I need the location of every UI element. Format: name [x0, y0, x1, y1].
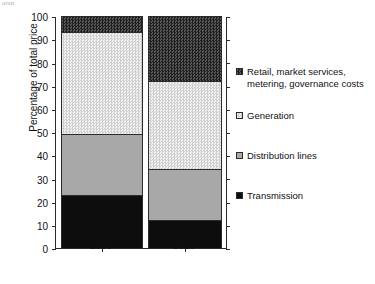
y-tick-label: 10 [24, 221, 48, 232]
plot-area: 0102030405060708090100 [55, 17, 227, 249]
bar-segment-2010-solid-gray [148, 169, 222, 220]
bar-segment-1990-solid-gray [61, 134, 143, 194]
y-tick-mark-right [226, 249, 230, 250]
y-tick-mark [52, 64, 56, 65]
legend-label: Generation [247, 110, 294, 122]
legend-item-light-checker[interactable]: Generation [236, 110, 294, 122]
legend-item-solid-black[interactable]: Transmission [236, 190, 303, 202]
legend-item-solid-gray[interactable]: Distribution lines [236, 150, 317, 162]
y-tick-30: 30 [24, 170, 56, 188]
y-tick-mark-right [226, 156, 230, 157]
y-tick-0: 0 [24, 240, 56, 258]
y-tick-mark [52, 87, 56, 88]
bar-segment-2010-light-checker [148, 81, 222, 169]
bar-2010 [148, 16, 222, 248]
bar-segment-1990-light-checker [61, 32, 143, 134]
y-tick-90: 90 [24, 31, 56, 49]
legend-label: Transmission [247, 190, 303, 202]
y-tick-100: 100 [24, 8, 56, 26]
y-tick-mark [52, 249, 56, 250]
legend-swatch-icon [236, 192, 243, 199]
legend-swatch-icon [236, 112, 243, 119]
y-tick-mark-right [226, 226, 230, 227]
y-tick-70: 70 [24, 78, 56, 96]
legend-label: Retail, market services, metering, gover… [247, 66, 367, 89]
y-tick-label: 60 [24, 105, 48, 116]
bar-segment-1990-dark-checker [61, 16, 143, 32]
y-tick-mark-right [226, 203, 230, 204]
y-tick-mark [52, 17, 56, 18]
y-tick-mark [52, 40, 56, 41]
y-tick-80: 80 [24, 54, 56, 72]
y-tick-label: 70 [24, 82, 48, 93]
y-tick-mark [52, 226, 56, 227]
y-tick-mark [52, 156, 56, 157]
y-tick-label: 0 [24, 244, 48, 255]
y-tick-label: 80 [24, 59, 48, 70]
y-tick-mark-right [226, 179, 230, 180]
y-tick-mark-right [226, 40, 230, 41]
y-tick-label: 30 [24, 175, 48, 186]
x-axis-label-2010: 2010 [154, 240, 214, 251]
y-tick-mark-right [226, 63, 230, 64]
bar-1990 [61, 16, 143, 248]
y-tick-20: 20 [24, 194, 56, 212]
legend-label: Distribution lines [247, 150, 317, 162]
bar-segment-2010-dark-checker [148, 16, 222, 81]
y-tick-mark [52, 133, 56, 134]
y-tick-mark [52, 110, 56, 111]
y-tick-mark-right [226, 133, 230, 134]
y-tick-mark [52, 180, 56, 181]
x-axis-label-1990: 1990 [71, 240, 131, 251]
legend-swatch-icon [236, 68, 243, 75]
y-tick-label: 50 [24, 128, 48, 139]
y-tick-50: 50 [24, 124, 56, 142]
y-tick-mark [52, 203, 56, 204]
legend-item-dark-checker[interactable]: Retail, market services, metering, gover… [236, 66, 367, 89]
y-tick-mark-right [226, 87, 230, 88]
legend-swatch-icon [236, 152, 243, 159]
y-tick-label: 40 [24, 151, 48, 162]
y-tick-mark-right [226, 110, 230, 111]
y-tick-mark-right [226, 17, 230, 18]
y-tick-40: 40 [24, 147, 56, 165]
y-tick-label: 100 [24, 12, 48, 23]
y-tick-label: 20 [24, 198, 48, 209]
y-tick-label: 90 [24, 35, 48, 46]
y-tick-60: 60 [24, 101, 56, 119]
y-tick-10: 10 [24, 217, 56, 235]
stacked-bar-chart: Percentage of total price 01020304050607… [0, 0, 375, 284]
